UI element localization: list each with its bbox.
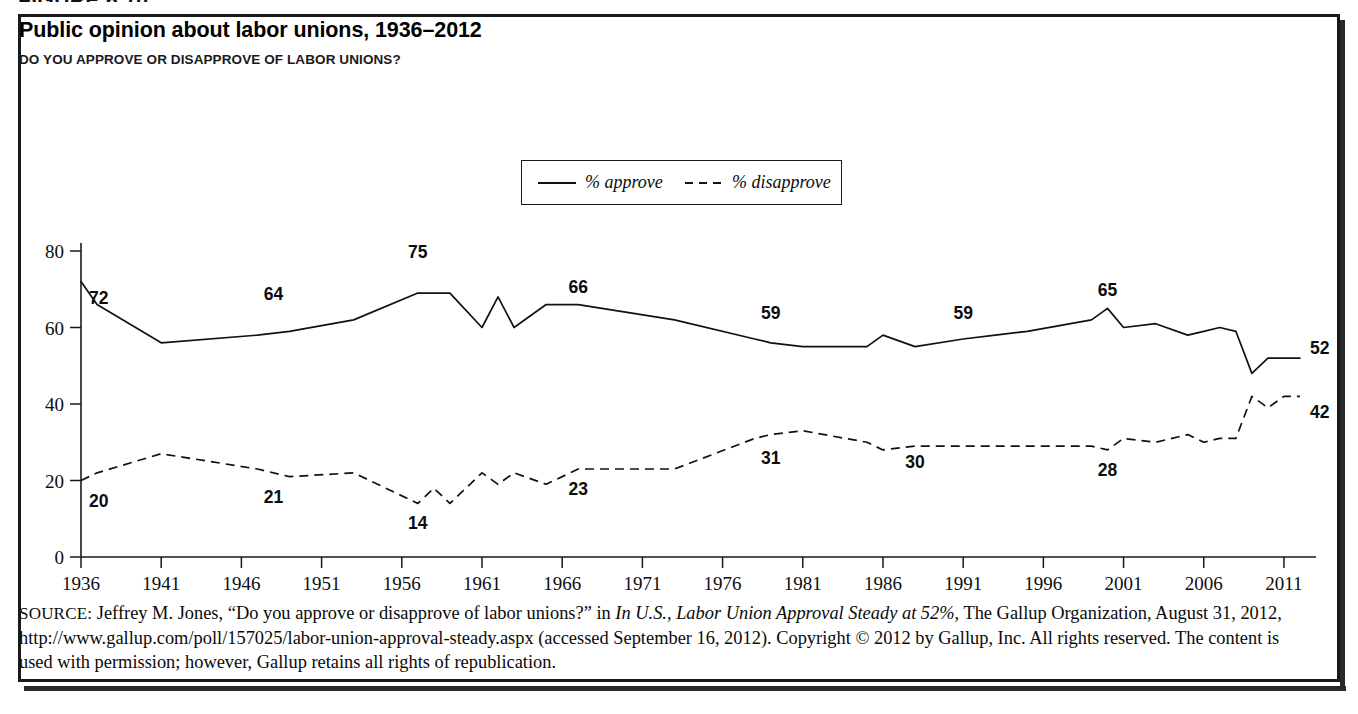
- legend-entry-disapprove: % disapprove: [685, 172, 831, 193]
- data-point-label: 75: [408, 242, 428, 262]
- data-point-label: 30: [905, 452, 925, 472]
- svg-text:1936: 1936: [62, 573, 100, 594]
- svg-text:1966: 1966: [543, 573, 581, 594]
- legend-label-approve: % approve: [585, 172, 663, 193]
- data-point-label: 66: [568, 277, 588, 297]
- svg-text:1981: 1981: [784, 573, 822, 594]
- svg-text:20: 20: [45, 471, 64, 492]
- svg-text:1991: 1991: [944, 573, 982, 594]
- svg-text:2011: 2011: [1265, 573, 1302, 594]
- chart-legend: % approve % disapprove: [521, 160, 842, 205]
- svg-text:2001: 2001: [1105, 573, 1143, 594]
- svg-text:1951: 1951: [303, 573, 341, 594]
- svg-text:1941: 1941: [142, 573, 180, 594]
- svg-text:1971: 1971: [623, 573, 661, 594]
- data-point-label: 14: [408, 513, 428, 533]
- y-axis-ticks: 020406080: [45, 241, 81, 568]
- svg-text:1996: 1996: [1024, 573, 1062, 594]
- svg-text:80: 80: [45, 241, 64, 262]
- data-point-label: 31: [761, 448, 781, 468]
- data-point-label: 21: [264, 487, 284, 507]
- data-point-label: 64: [264, 284, 284, 304]
- data-point-label: 20: [89, 491, 109, 511]
- legend-dashed-line-icon: [685, 177, 723, 189]
- svg-text:1976: 1976: [704, 573, 742, 594]
- svg-text:2006: 2006: [1185, 573, 1223, 594]
- svg-text:1946: 1946: [222, 573, 260, 594]
- data-point-label: 72: [89, 288, 109, 308]
- data-point-label: 42: [1310, 402, 1330, 422]
- data-point-label: 65: [1098, 280, 1118, 300]
- data-point-label: 59: [953, 303, 973, 323]
- source-publication-title: In U.S., Labor Union Approval Steady at …: [615, 603, 954, 623]
- data-point-label: 28: [1098, 460, 1118, 480]
- x-axis-ticks: 1936194119461951195619611966197119761981…: [62, 557, 1303, 594]
- svg-text:1961: 1961: [463, 573, 501, 594]
- chart-point-labels: 72647566595965522021142331302842: [89, 242, 1330, 533]
- data-point-label: 52: [1310, 338, 1330, 358]
- source-note: SOURCE: Jeffrey M. Jones, “Do you approv…: [19, 601, 1305, 675]
- source-label: SOURCE:: [19, 604, 92, 623]
- source-text-part-1: Jeffrey M. Jones, “Do you approve or dis…: [92, 603, 615, 623]
- legend-solid-line-icon: [538, 177, 576, 189]
- svg-text:0: 0: [55, 547, 65, 568]
- svg-text:1956: 1956: [383, 573, 421, 594]
- svg-text:1986: 1986: [864, 573, 902, 594]
- svg-text:60: 60: [45, 318, 64, 339]
- svg-text:40: 40: [45, 394, 64, 415]
- legend-entry-approve: % approve: [538, 172, 663, 193]
- legend-label-disapprove: % disapprove: [732, 172, 831, 193]
- data-point-label: 23: [568, 479, 588, 499]
- data-point-label: 59: [761, 303, 781, 323]
